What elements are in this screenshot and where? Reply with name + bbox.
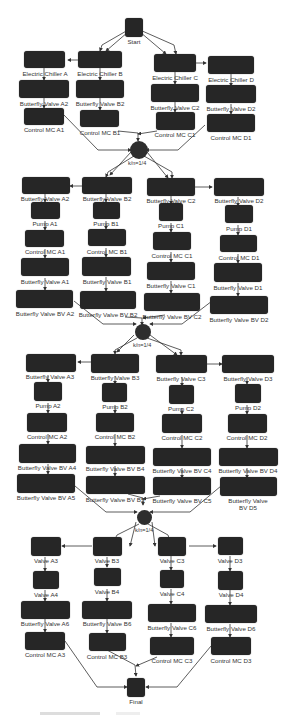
label-butterfly-valve-d2: Butterfly Valve D2 (206, 105, 255, 112)
label-butterfly-valve-a3: Butterfly Valve A3 (26, 373, 74, 380)
label-butterfly-valve-a1: Butterfly Valve A1 (21, 278, 69, 285)
gate-1-label: k/n=1/4 (128, 160, 146, 166)
label-butterfly-valve-bv-c2: Butterfly Valve BV C2 (142, 313, 201, 320)
node-butterfly-valve-bv-c4 (153, 448, 211, 466)
node-butterfly-valve-d6 (205, 605, 257, 623)
start-label: Start (127, 38, 140, 45)
node-valve-d3 (218, 537, 243, 555)
node-s2-control-mc-b1 (88, 229, 126, 246)
label-butterfly-valve-c6: Butterfly Valve C6 (147, 624, 196, 631)
label-valve-d3: Valve D3 (218, 557, 243, 564)
label-s2-butterfly-valve-d2: Butterfly Valve D2 (214, 197, 263, 204)
label-pump-b2: Pump B2 (102, 403, 127, 410)
label-butterfly-valve-b2: Butterfly Valve B2 (76, 100, 125, 107)
node-butterfly-valve-bv-a5 (17, 474, 75, 493)
label-butterfly-valve-b3: Butterfly Valve B3 (91, 374, 140, 381)
node-control-mc-a3 (25, 632, 65, 650)
label-s2-control-mc-c1: Control MC C1 (152, 252, 193, 259)
label-valve-b4: Valve B4 (95, 588, 119, 595)
node-s2-control-mc-a1 (25, 230, 64, 247)
label-butterfly-valve-a6: Butterfly Valve A6 (21, 620, 69, 627)
node-s2-control-mc-d1 (220, 235, 257, 252)
node-butterfly-valve-bv-a2 (16, 290, 73, 308)
label-butterfly-valve-c3: Butterfly Valve C3 (156, 375, 205, 382)
label-butterfly-valve-bv-a2: Butterfly Valve BV A2 (16, 310, 74, 317)
label-valve-b3: Valve B3 (95, 557, 119, 564)
node-butterfly-valve-bv-a4 (19, 444, 76, 463)
node-valve-b3 (93, 537, 122, 556)
node-butterfly-valve-c1 (147, 262, 195, 280)
node-control-mc-d1 (207, 114, 255, 132)
label-butterfly-valve-c2: Butterfly Valve C2 (150, 104, 199, 111)
node-butterfly-valve-bv-b4 (86, 446, 145, 464)
node-butterfly-valve-b6 (82, 601, 132, 619)
diagram-canvas: Start Electric Chiller A Electric Chille… (0, 0, 288, 721)
node-butterfly-valve-d2 (206, 85, 256, 103)
label-electric-chiller-c: Electric Chiller C (152, 74, 198, 81)
node-electric-chiller-a (24, 51, 65, 68)
label-butterfly-valve-bv-d2: Butterfly Valve BV D2 (209, 316, 268, 323)
label-valve-a3: Valve A3 (34, 557, 58, 564)
label-pump-c2: Pump C2 (168, 405, 194, 412)
label-electric-chiller-a: Electric Chiller A (22, 70, 67, 77)
node-valve-c3 (158, 537, 186, 556)
label-butterfly-valve-bv-d4: Butterfly Valve BV D4 (218, 467, 277, 474)
node-control-mc-c2 (162, 414, 202, 433)
node-valve-d4 (218, 571, 243, 590)
node-electric-chiller-b (78, 51, 122, 68)
label-butterfly-valve-b1: Butterfly Valve B1 (83, 278, 132, 285)
node-butterfly-valve-c3 (156, 355, 207, 373)
node-control-mc-d3 (211, 637, 251, 655)
caption-fragment (40, 712, 240, 715)
node-butterfly-valve-bv-b2 (80, 291, 136, 309)
node-butterfly-valve-bv-c5 (153, 477, 211, 495)
label-pump-d1: Pump D1 (226, 225, 252, 232)
label-butterfly-valve-bv-b4: Butterfly Valve BV B4 (86, 465, 145, 472)
node-butterfly-valve-bv-d2 (210, 296, 268, 314)
label-control-mc-b1: Control MC B1 (80, 129, 121, 136)
node-electric-chiller-c (154, 54, 196, 72)
label-butterfly-valve-bv-a5: Butterfly Valve BV A5 (17, 494, 75, 501)
node-butterfly-valve-a2 (19, 80, 69, 98)
node-s2-butterfly-valve-b2 (82, 177, 132, 194)
label-pump-a1: Pump A1 (32, 220, 57, 227)
node-butterfly-valve-c2 (151, 84, 199, 102)
label-valve-a4: Valve A4 (34, 591, 58, 598)
node-control-mc-a1 (24, 108, 64, 125)
node-butterfly-valve-b3 (91, 354, 139, 373)
gate-3-label: k/n=1/4 (135, 527, 153, 533)
node-butterfly-valve-a6 (21, 601, 70, 619)
node-valve-b4 (94, 568, 121, 586)
node-electric-chiller-d (208, 56, 254, 74)
node-valve-a4 (33, 571, 59, 589)
node-butterfly-valve-a1 (21, 258, 69, 276)
label-pump-d2: Pump D2 (235, 404, 261, 411)
node-pump-c2 (169, 385, 194, 404)
label-control-mc-a1: Control MC A1 (24, 126, 64, 133)
node-pump-b1 (93, 202, 120, 219)
label-butterfly-valve-d1: Butterfly Valve D1 (213, 284, 262, 291)
label-butterfly-valve-d6: Butterfly Valve D6 (206, 625, 255, 632)
label-butterfly-valve-bv-c4: Butterfly Valve BV C4 (152, 467, 211, 474)
node-pump-a1 (31, 202, 60, 219)
label-butterfly-valve-b6: Butterfly Valve B6 (83, 620, 132, 627)
node-butterfly-valve-c6 (148, 604, 196, 622)
label-control-mc-c3: Control MC C3 (152, 657, 193, 664)
label-control-mc-d2: Control MC D2 (227, 434, 268, 441)
label-butterfly-valve-d3: Butterfly Valve D3 (223, 375, 272, 382)
node-pump-c1 (159, 203, 183, 221)
label-butterfly-valve-bv-c5: Butterfly Valve BV C5 (152, 497, 211, 504)
node-control-mc-d2 (228, 414, 267, 433)
start-node (125, 18, 143, 37)
node-butterfly-valve-bv-d4 (219, 448, 278, 466)
label-valve-c4: Valve C4 (160, 590, 185, 597)
label-s2-control-mc-b1: Control MC B1 (87, 248, 128, 255)
label-butterfly-valve-bv-b5: Butterfly Valve BV B5 (86, 496, 145, 503)
node-butterfly-valve-b2 (76, 80, 124, 98)
node-control-mc-b2 (96, 413, 134, 432)
label-pump-b1: Pump B1 (93, 220, 118, 227)
node-valve-a3 (31, 537, 61, 556)
node-s2-butterfly-valve-c2 (147, 178, 195, 196)
node-control-mc-b1 (80, 110, 119, 127)
label-control-mc-c1: Control MC C1 (155, 131, 196, 138)
